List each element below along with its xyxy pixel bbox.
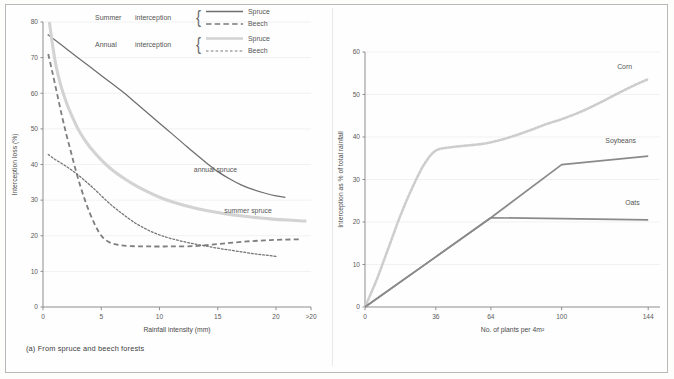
caption-a: (a) From spruce and beech forests [26,344,144,353]
y-tick-label-70: 70 [31,54,39,61]
series-soybeans [365,156,648,307]
annotation-corn: Corn [617,63,632,70]
legend-group-head-summer: Summer [95,14,122,21]
y-tick-label-40: 40 [353,133,361,140]
legend-label-annual-spruce: Spruce [248,35,270,43]
x-tick-label-144: 144 [643,313,654,320]
legend-group-word-annual: interception [135,41,171,49]
x-axis-title: Rainfall intensity (mm) [143,326,210,334]
x-axis-title: No. of plants per 4m² [481,326,545,334]
y-tick-label-80: 80 [31,18,39,25]
y-tick-label-60: 60 [31,90,39,97]
y-tick-label-50: 50 [31,125,39,132]
x-tick-label-15: 15 [214,313,222,320]
annotation-soybeans: Soybeans [605,137,636,145]
x-tick-label-5: 5 [99,313,103,320]
x-tick-label-0: 0 [41,313,45,320]
annotation-oats: Oats [625,199,640,206]
legend-brace-annual: { [196,34,201,55]
legend-group-word-summer: interception [135,14,171,22]
x-tick-label-36: 36 [432,313,440,320]
legend-label-summer-beech: Beech [248,20,268,27]
legend-panel-a: Summerinterception{SpruceBeechAnnualinte… [95,7,270,55]
panel-b-agricultural-crops: 010203040506003664100144No. of plants pe… [333,0,674,379]
y-tick-label-20: 20 [353,218,361,225]
x-tick-label-0: 0 [363,313,367,320]
y-tick-label-60: 60 [353,48,361,55]
x-tick-label-10: 10 [156,313,164,320]
legend-label-summer-spruce: Spruce [248,8,270,16]
y-axis-title: Interception as % of total rainfall [337,131,345,228]
y-tick-label-0: 0 [356,303,360,310]
series-summer-spruce [49,22,306,221]
series-annual-beech [48,155,276,257]
y-tick-label-0: 0 [34,303,38,310]
x-tick-label-20: 20 [272,313,280,320]
y-tick-label-40: 40 [31,161,39,168]
chart-a-svg: 0102030405060708005101520>20Rainfall int… [0,0,333,340]
legend-label-annual-beech: Beech [248,47,268,54]
y-tick-label-10: 10 [353,261,361,268]
y-tick-label-10: 10 [31,268,39,275]
y-tick-label-30: 30 [353,176,361,183]
y-axis-title: Interception loss (%) [11,134,19,196]
x-tick-label-64: 64 [487,313,495,320]
series-oats [365,218,648,307]
legend-brace-summer: { [196,7,201,28]
x-tick-label->20: >20 [305,313,317,320]
series-corn [365,79,648,307]
y-tick-label-30: 30 [31,196,39,203]
y-tick-label-50: 50 [353,91,361,98]
figure-root: 0102030405060708005101520>20Rainfall int… [0,0,674,379]
y-tick-label-20: 20 [31,232,39,239]
series-annual-spruce [48,34,286,197]
panel-a-spruce-beech: 0102030405060708005101520>20Rainfall int… [0,0,333,379]
annotation-annual-spruce: annual spruce [194,166,237,174]
legend-group-head-annual: Annual [95,41,117,48]
x-tick-label-100: 100 [556,313,567,320]
chart-b-svg: 010203040506003664100144No. of plants pe… [333,0,674,340]
annotation-summer-spruce: summer spruce [224,207,272,215]
